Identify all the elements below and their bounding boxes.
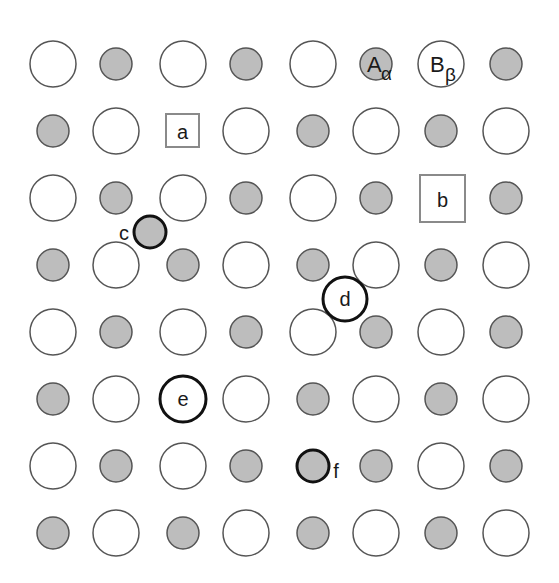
large-ion-atom xyxy=(223,376,269,422)
small-ion-atom xyxy=(425,115,457,147)
large-ion-atom xyxy=(223,510,269,556)
small-ion-atom xyxy=(297,383,329,415)
label-d: d xyxy=(339,288,350,310)
small-ion-atom xyxy=(360,450,392,482)
lattice-atoms xyxy=(30,41,529,556)
small-ion-atom xyxy=(490,182,522,214)
small-ion-atom xyxy=(230,48,262,80)
label-alpha: α xyxy=(381,63,392,84)
small-ion-atom xyxy=(425,249,457,281)
small-ion-atom xyxy=(230,182,262,214)
small-ion-atom xyxy=(100,48,132,80)
large-ion-atom xyxy=(290,175,336,221)
large-ion-atom xyxy=(223,108,269,154)
large-ion-atom xyxy=(93,510,139,556)
large-ion-atom xyxy=(30,175,76,221)
small-ion-atom xyxy=(167,517,199,549)
large-ion-atom xyxy=(30,309,76,355)
large-ion-atom xyxy=(483,376,529,422)
label-beta: β xyxy=(445,64,456,85)
large-ion-atom xyxy=(93,108,139,154)
label-c: c xyxy=(119,222,129,244)
large-ion-atom xyxy=(353,108,399,154)
small-ion-atom xyxy=(230,450,262,482)
label-e: e xyxy=(177,388,188,410)
small-ion-atom xyxy=(297,249,329,281)
small-ion-atom xyxy=(490,48,522,80)
label-A: A xyxy=(367,52,382,77)
small-ion-atom xyxy=(230,316,262,348)
large-ion-atom xyxy=(93,242,139,288)
small-ion-atom xyxy=(100,182,132,214)
small-ion-atom xyxy=(37,115,69,147)
small-ion-atom xyxy=(297,517,329,549)
large-ion-atom xyxy=(160,41,206,87)
small-ion-atom xyxy=(37,383,69,415)
small-ion-atom xyxy=(360,316,392,348)
large-ion-atom xyxy=(483,108,529,154)
small-ion-atom xyxy=(490,450,522,482)
small-ion-atom xyxy=(425,517,457,549)
large-ion-atom xyxy=(30,443,76,489)
small-ion-atom xyxy=(100,316,132,348)
small-ion-atom xyxy=(37,249,69,281)
large-ion-atom xyxy=(160,443,206,489)
small-ion-atom xyxy=(297,115,329,147)
small-ion-atom xyxy=(425,383,457,415)
interstitial-c-atom xyxy=(134,216,166,248)
large-ion-atom xyxy=(418,309,464,355)
large-ion-atom xyxy=(223,242,269,288)
small-ion-atom xyxy=(167,249,199,281)
large-ion-atom xyxy=(353,376,399,422)
lattice-diagram: A α B β a b c d e f xyxy=(0,0,559,583)
large-ion-atom xyxy=(160,309,206,355)
large-ion-atom xyxy=(483,510,529,556)
small-ion-atom xyxy=(490,316,522,348)
label-B: B xyxy=(430,52,445,77)
lattice-svg: A α B β a b c d e f xyxy=(0,0,559,583)
substitution-f-atom xyxy=(297,450,329,482)
large-ion-atom xyxy=(418,443,464,489)
large-ion-atom xyxy=(353,510,399,556)
large-ion-atom xyxy=(93,376,139,422)
large-ion-atom xyxy=(30,41,76,87)
small-ion-atom xyxy=(37,517,69,549)
large-ion-atom xyxy=(290,41,336,87)
label-b: b xyxy=(437,189,448,211)
label-f: f xyxy=(333,460,339,482)
large-ion-atom xyxy=(160,175,206,221)
small-ion-atom xyxy=(100,450,132,482)
small-ion-atom xyxy=(360,182,392,214)
label-a: a xyxy=(177,121,189,143)
large-ion-atom xyxy=(483,242,529,288)
